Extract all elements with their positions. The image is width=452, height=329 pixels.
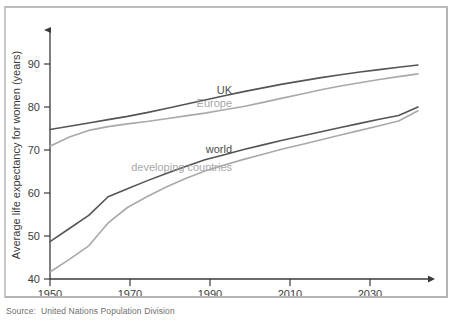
y-tick-label-90: 90 (28, 58, 40, 70)
series-line-europe (50, 74, 418, 146)
x-tick-label-1950: 1950 (38, 288, 62, 296)
chart-frame: 40 50 60 70 80 90 1950 1970 1990 2010 20… (4, 6, 448, 298)
y-tick-label-40: 40 (28, 273, 40, 285)
series-annotations: UK Europe world developing countries (131, 84, 233, 173)
source-note: Source: United Nations Population Divisi… (6, 306, 175, 316)
x-tick-label-1970: 1970 (118, 288, 142, 296)
series-label-world: world (205, 143, 232, 155)
axes (50, 30, 430, 279)
y-tick-label-50: 50 (28, 230, 40, 242)
series-lines (50, 65, 418, 272)
y-tick-label-80: 80 (28, 101, 40, 113)
series-line-developing-countries (50, 111, 418, 272)
series-line-uk (50, 65, 418, 129)
series-label-uk: UK (217, 84, 233, 96)
x-axis-ticks (50, 279, 370, 286)
line-chart: 40 50 60 70 80 90 1950 1970 1990 2010 20… (6, 8, 446, 296)
x-axis-tick-labels: 1950 1970 1990 2010 2030 (38, 288, 382, 296)
series-label-europe: Europe (197, 97, 232, 109)
series-label-developing-countries: developing countries (131, 161, 232, 173)
figure-container: 40 50 60 70 80 90 1950 1970 1990 2010 20… (0, 0, 452, 329)
y-tick-label-70: 70 (28, 144, 40, 156)
y-tick-label-60: 60 (28, 187, 40, 199)
y-axis-tick-labels: 40 50 60 70 80 90 (28, 58, 40, 285)
x-tick-label-2030: 2030 (358, 288, 382, 296)
y-axis-ticks (44, 64, 50, 279)
y-axis-title: Average life expectancy for women (years… (10, 51, 22, 259)
x-tick-label-1990: 1990 (198, 288, 222, 296)
x-tick-label-2010: 2010 (278, 288, 302, 296)
